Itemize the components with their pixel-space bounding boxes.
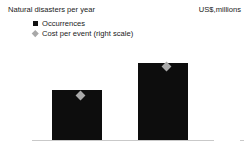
x-axis-baseline — [32, 140, 214, 141]
x-axis-right-stub — [240, 140, 244, 141]
chart-container: Natural disasters per year US$,millions … — [0, 0, 245, 141]
plot-area: 01020304050 050100150200250 — [34, 25, 206, 115]
right-axis-title: US$,millions — [199, 5, 241, 14]
left-axis-title: Natural disasters per year — [8, 5, 95, 14]
bar-undefined — [138, 63, 188, 140]
